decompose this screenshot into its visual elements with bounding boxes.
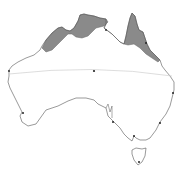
australia-map: [0, 0, 187, 182]
point-north: [105, 29, 107, 31]
point-adelaide: [112, 121, 114, 123]
point-tasmania: [138, 161, 140, 163]
point-melbourne: [133, 135, 135, 137]
point-center: [93, 70, 95, 72]
gulf-coastline: [104, 24, 124, 44]
point-east-coast-1: [172, 92, 174, 94]
point-northeast: [145, 42, 147, 44]
tropic-arc-line: [9, 69, 172, 76]
point-west-coast: [8, 70, 10, 72]
point-east-coast-2: [159, 122, 161, 124]
point-southwest: [22, 112, 24, 114]
